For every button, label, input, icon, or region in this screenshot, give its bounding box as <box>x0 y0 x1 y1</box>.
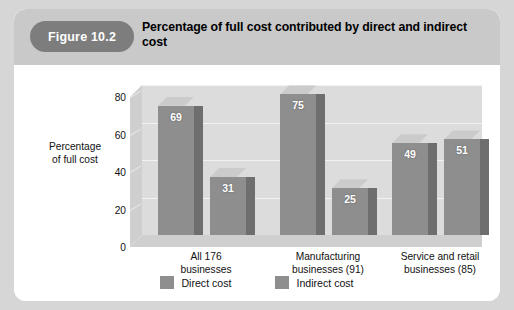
figure-number-badge: Figure 10.2 <box>30 21 134 52</box>
legend-label: Direct cost <box>181 277 231 289</box>
bar-side-face <box>246 177 255 235</box>
bar-indirect-2[interactable]: 51 <box>444 130 480 235</box>
x-axis-label-1: Manufacturingbusinesses (91) <box>268 251 388 276</box>
bar-value-label: 25 <box>332 193 368 205</box>
x-axis-label-2: Service and retailbusinesses (85) <box>380 251 500 276</box>
bar-side-face <box>194 106 203 235</box>
legend-label: Indirect cost <box>296 277 353 289</box>
bar-top-face <box>444 130 480 139</box>
y-axis-tick-40: 40 <box>100 167 126 178</box>
x-axis-label-line-2: businesses (91) <box>268 264 388 277</box>
legend-item-indirect-cost[interactable]: Indirect cost <box>275 276 353 289</box>
bar-side-face <box>480 139 489 235</box>
plot-area: 693175254951 <box>130 85 482 247</box>
bar-indirect-0[interactable]: 31 <box>210 168 246 235</box>
bar-top-face <box>210 168 246 177</box>
legend-swatch-icon <box>275 276 289 289</box>
legend-item-direct-cost[interactable]: Direct cost <box>160 276 231 289</box>
bar-side-face <box>368 188 377 235</box>
figure-title: Percentage of full cost contributed by d… <box>142 20 486 49</box>
legend-swatch-icon <box>160 276 174 289</box>
y-axis-tick-80: 80 <box>100 92 126 103</box>
x-axis-label-0: All 176businesses <box>146 251 266 276</box>
y-axis-tick-20: 20 <box>100 204 126 215</box>
figure-root: Figure 10.2 Percentage of full cost cont… <box>0 0 514 310</box>
bar-top-face <box>332 179 368 188</box>
y-axis-tick-labels: 020406080 <box>100 85 126 245</box>
bar-front-face <box>158 106 194 235</box>
figure-header: Figure 10.2 Percentage of full cost cont… <box>14 9 500 65</box>
bar-value-label: 51 <box>444 144 480 156</box>
x-axis-label-line-2: businesses (85) <box>380 264 500 277</box>
bar-direct-2[interactable]: 49 <box>392 134 428 235</box>
y-axis-tick-60: 60 <box>100 129 126 140</box>
x-axis-label-line-2: businesses <box>146 264 266 277</box>
bar-top-face <box>280 85 316 94</box>
bar-value-label: 69 <box>158 111 194 123</box>
bar-direct-1[interactable]: 75 <box>280 85 316 235</box>
bar-top-face <box>392 134 428 143</box>
bar-indirect-1[interactable]: 25 <box>332 179 368 235</box>
bar-value-label: 75 <box>280 99 316 111</box>
chart-body: Percentage of full cost 020406080 693175… <box>14 65 500 301</box>
x-axis-label-line-1: All 176 <box>146 251 266 264</box>
x-axis-label-line-1: Service and retail <box>380 251 500 264</box>
bar-side-face <box>428 143 437 235</box>
plot-floor <box>130 235 482 247</box>
bar-top-face <box>158 97 194 106</box>
bar-side-face <box>316 94 325 235</box>
bar-value-label: 31 <box>210 182 246 194</box>
bar-front-face <box>280 94 316 235</box>
figure-card: Figure 10.2 Percentage of full cost cont… <box>14 9 500 301</box>
bar-value-label: 49 <box>392 148 428 160</box>
y-axis-tick-0: 0 <box>100 242 126 253</box>
bar-direct-0[interactable]: 69 <box>158 97 194 235</box>
x-axis-label-line-1: Manufacturing <box>268 251 388 264</box>
chart-legend: Direct costIndirect cost <box>14 276 500 289</box>
